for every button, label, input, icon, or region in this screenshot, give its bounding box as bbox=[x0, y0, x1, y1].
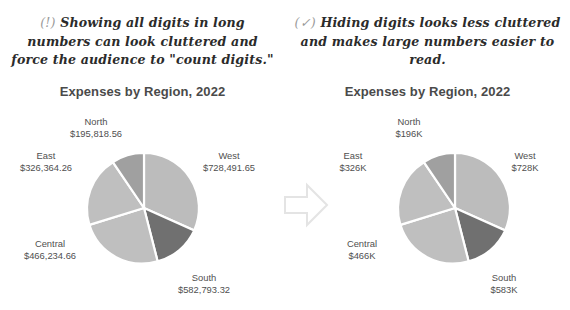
pie-label-south-left: South $582,793.32 bbox=[150, 272, 258, 295]
chart-title-right: Expenses by Region, 2022 bbox=[285, 84, 570, 99]
pie-label-east-value: $326,364.26 bbox=[0, 162, 92, 174]
pie-label-west-value: $728K bbox=[490, 162, 560, 174]
pie-label-west-name: West bbox=[176, 150, 282, 162]
pie-label-south-value: $582,793.32 bbox=[150, 284, 258, 296]
pie-label-south-value: $583K bbox=[466, 284, 542, 296]
caption-full-digits: (!) Showing all digits in long numbers c… bbox=[8, 14, 277, 70]
pie-label-central-left: Central $466,234.66 bbox=[0, 238, 100, 261]
pie-label-central-name: Central bbox=[0, 238, 100, 250]
pie-label-central-value: $466K bbox=[322, 250, 402, 262]
pie-label-south-right: South $583K bbox=[466, 272, 542, 295]
panel-full-digits: (!) Showing all digits in long numbers c… bbox=[0, 0, 285, 310]
pie-label-east-name: East bbox=[318, 150, 388, 162]
pie-label-north-right: North $196K bbox=[370, 116, 448, 139]
pie-label-west-value: $728,491.65 bbox=[176, 162, 282, 174]
check-marker-icon: (✓) bbox=[295, 15, 316, 30]
pie-label-south-name: South bbox=[150, 272, 258, 284]
pie-label-north-name: North bbox=[46, 116, 146, 128]
pie-label-north-value: $196K bbox=[370, 128, 448, 140]
pie-label-central-value: $466,234.66 bbox=[0, 250, 100, 262]
pie-label-east-left: East $326,364.26 bbox=[0, 150, 92, 173]
pie-label-west-name: West bbox=[490, 150, 560, 162]
caption-abbreviated: (✓) Hiding digits looks less cluttered a… bbox=[293, 14, 562, 70]
pie-label-east-value: $326K bbox=[318, 162, 388, 174]
pie-label-west-left: West $728,491.65 bbox=[176, 150, 282, 173]
caption-text: Hiding digits looks less cluttered and m… bbox=[301, 15, 561, 67]
pie-label-east-right: East $326K bbox=[318, 150, 388, 173]
pie-label-north-name: North bbox=[370, 116, 448, 128]
pie-label-east-name: East bbox=[0, 150, 92, 162]
pie-label-north-left: North $195,818.56 bbox=[46, 116, 146, 139]
pie-label-central-right: Central $466K bbox=[322, 238, 402, 261]
pie-label-north-value: $195,818.56 bbox=[46, 128, 146, 140]
chart-title-left: Expenses by Region, 2022 bbox=[0, 84, 285, 99]
pie-label-south-name: South bbox=[466, 272, 542, 284]
warning-marker-icon: (!) bbox=[40, 15, 55, 30]
pie-label-central-name: Central bbox=[322, 238, 402, 250]
pie-label-west-right: West $728K bbox=[490, 150, 560, 173]
